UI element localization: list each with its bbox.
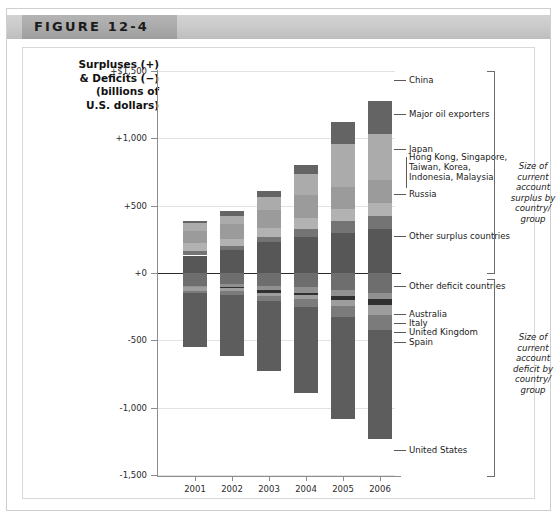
bar-2006[interactable] xyxy=(368,48,392,500)
bar-segment xyxy=(368,330,392,439)
bar-segment xyxy=(183,243,207,251)
callout-leader-line xyxy=(394,114,406,115)
bar-segment xyxy=(294,237,318,273)
callout-label: Spain xyxy=(409,337,433,347)
bar-segment xyxy=(294,195,318,218)
bar-segment xyxy=(368,273,392,293)
callout-leader-line xyxy=(394,194,406,195)
bar-2003[interactable] xyxy=(257,48,281,500)
bar-segment xyxy=(257,237,281,242)
callout-label: Other deficit countries xyxy=(409,281,505,291)
bar-segment xyxy=(257,228,281,237)
callout-leader-line xyxy=(394,342,406,343)
bar-segment xyxy=(183,223,207,230)
y-tick--1000 xyxy=(151,408,157,409)
callout-label: Hong Kong, Singapore, Taiwan, Korea, Ind… xyxy=(409,152,507,183)
callout-leader-line xyxy=(394,286,406,287)
surplus-bracket-arm xyxy=(487,71,495,72)
y-axis-label-500: +500 xyxy=(87,201,147,211)
bar-segment xyxy=(183,256,207,273)
bar-segment xyxy=(257,242,281,273)
bar-segment xyxy=(294,229,318,237)
callout-leader-line xyxy=(394,323,406,324)
callout-label: United States xyxy=(409,445,467,455)
callout-label: Russia xyxy=(409,189,437,199)
bar-segment xyxy=(331,209,355,221)
callout-leader-line xyxy=(394,80,406,81)
callout-leader-line xyxy=(394,450,406,451)
y-tick-500 xyxy=(151,206,157,207)
x-tick-2006 xyxy=(380,476,381,481)
x-tick-2002 xyxy=(232,476,233,481)
x-axis-label-2003: 2003 xyxy=(249,484,289,494)
bar-segment xyxy=(257,191,281,197)
bar-segment xyxy=(294,273,318,287)
bar-segment xyxy=(257,301,281,371)
bar-segment xyxy=(368,134,392,180)
bar-segment xyxy=(220,250,244,273)
surplus-bracket-label: Size of current account surplus by count… xyxy=(502,161,557,225)
callout-label: Major oil exporters xyxy=(409,109,490,119)
y-tick--1500 xyxy=(151,475,157,476)
y-axis-label-1500: +$1,500 xyxy=(87,66,147,76)
callout-label: United Kingdom xyxy=(409,327,478,337)
callout-leader-line xyxy=(394,149,406,150)
bar-segment xyxy=(368,180,392,203)
bar-segment xyxy=(220,211,244,216)
bar-segment xyxy=(368,216,392,229)
x-tick-2001 xyxy=(195,476,196,481)
bar-segment xyxy=(331,273,355,290)
bar-segment xyxy=(331,317,355,419)
x-axis-label-2005: 2005 xyxy=(323,484,363,494)
bar-segment xyxy=(220,216,244,224)
bar-segment xyxy=(183,273,207,286)
x-tick-2004 xyxy=(306,476,307,481)
bar-segment xyxy=(368,315,392,329)
bar-segment xyxy=(220,224,244,239)
figure-page: FIGURE 12-4 Surpluses (+) & Deficits (−)… xyxy=(0,0,557,517)
bar-segment xyxy=(368,305,392,315)
y-axis-label--500: -500 xyxy=(87,335,147,345)
bar-2004[interactable] xyxy=(294,48,318,500)
bar-segment xyxy=(331,221,355,232)
bar-segment xyxy=(294,218,318,229)
bar-segment xyxy=(220,295,244,357)
bar-segment xyxy=(220,246,244,250)
y-tick-0 xyxy=(151,273,157,274)
deficit-bracket-spine xyxy=(494,279,495,476)
bar-segment xyxy=(183,293,207,347)
y-tick--500 xyxy=(151,340,157,341)
bar-2005[interactable] xyxy=(331,48,355,500)
x-axis-label-2006: 2006 xyxy=(360,484,400,494)
bar-segment xyxy=(294,174,318,195)
deficit-bracket-label: Size of current account deficit by count… xyxy=(502,332,557,396)
bar-segment xyxy=(183,221,207,223)
deficit-bracket-arm xyxy=(487,476,495,477)
bar-segment xyxy=(257,197,281,209)
bar-segment xyxy=(331,144,355,187)
y-axis-label--1500: -1,500 xyxy=(87,470,147,480)
bar-segment xyxy=(294,299,318,306)
bar-2002[interactable] xyxy=(220,48,244,500)
bar-2001[interactable] xyxy=(183,48,207,500)
surplus-bracket-spine xyxy=(494,71,495,273)
y-tick-1500 xyxy=(151,71,157,72)
bar-segment xyxy=(294,165,318,174)
x-tick-2003 xyxy=(269,476,270,481)
y-axis-label-0: +0 xyxy=(87,268,147,278)
callout-label: China xyxy=(409,75,434,85)
bar-segment xyxy=(220,273,244,284)
bar-segment xyxy=(331,306,355,317)
callout-leader-line xyxy=(394,314,406,315)
bar-segment xyxy=(220,239,244,246)
y-tick-1000 xyxy=(151,138,157,139)
bar-segment xyxy=(368,101,392,135)
surplus-bracket-arm xyxy=(487,273,495,274)
plot-area: +$1,500+1,000+500+0-500-1,000-1,50020012… xyxy=(23,48,536,500)
bar-segment xyxy=(368,229,392,273)
bar-segment xyxy=(331,122,355,144)
bar-segment xyxy=(183,231,207,243)
x-tick-2005 xyxy=(343,476,344,481)
figure-number-label: FIGURE 12-4 xyxy=(34,19,149,34)
x-axis-label-2001: 2001 xyxy=(175,484,215,494)
